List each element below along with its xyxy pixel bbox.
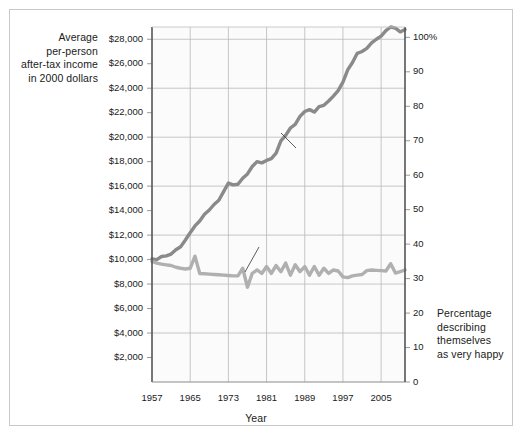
chart-figure: Average per-person after-tax income in 2… <box>0 0 522 435</box>
chart-plot <box>0 0 522 435</box>
gridlines <box>152 27 405 382</box>
